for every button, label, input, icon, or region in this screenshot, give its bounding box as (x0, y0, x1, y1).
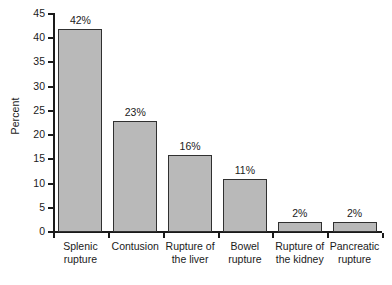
bar (58, 29, 102, 232)
x-axis-category-label-line: Splenic (53, 240, 108, 253)
x-axis-category-label-line: Rupture of (163, 240, 218, 253)
x-axis-category-label-line: Contusion (108, 240, 163, 253)
x-axis-category-label-line: rupture (327, 253, 382, 266)
bar (113, 121, 157, 232)
bar-value-label: 2% (347, 207, 362, 219)
y-axis-tick-label: 35 (33, 55, 45, 68)
bar (168, 155, 212, 233)
bar-value-label: 23% (125, 106, 146, 118)
x-axis-tick-mark (272, 233, 274, 238)
x-axis-category-label-line: Pancreatic (327, 240, 382, 253)
bar-group: 23% (108, 14, 163, 232)
x-axis-tick-mark (163, 233, 165, 238)
x-axis-category-label-line: rupture (218, 253, 273, 266)
x-axis-tick-mark (53, 233, 55, 238)
y-axis-tick-label: 40 (33, 31, 45, 44)
bar (278, 222, 322, 232)
x-axis-category-label: Contusion (108, 240, 163, 253)
x-axis-tick-mark (108, 233, 110, 238)
bar-group: 16% (163, 14, 218, 232)
y-axis-title: Percent (6, 0, 24, 232)
bar-group: 2% (272, 14, 327, 232)
x-axis-category-label-line: Rupture of (272, 240, 327, 253)
y-axis-tick-label: 25 (33, 104, 45, 117)
y-axis-title-text: Percent (9, 98, 21, 135)
x-axis-tick-mark (382, 233, 384, 238)
x-axis-category-label: Pancreaticrupture (327, 240, 382, 266)
y-axis-tick-label: 15 (33, 152, 45, 165)
bar (223, 179, 267, 232)
y-axis-tick-label: 20 (33, 128, 45, 141)
y-axis-tick-label: 30 (33, 80, 45, 93)
x-axis-category-label-line: Bowel (218, 240, 273, 253)
bars-layer: 42%23%16%11%2%2% (53, 14, 382, 232)
x-axis-category-label-line: the kidney (272, 253, 327, 266)
x-axis-category-label: Rupture ofthe kidney (272, 240, 327, 266)
bar (333, 222, 377, 232)
x-axis-tick-mark (218, 233, 220, 238)
bar-value-label: 16% (180, 140, 201, 152)
bar-group: 42% (53, 14, 108, 232)
x-axis-category-label: Bowelrupture (218, 240, 273, 266)
bar-chart: Percent 454035302520151050 42%23%16%11%2… (0, 0, 392, 285)
x-axis-category-label-line: rupture (53, 253, 108, 266)
y-axis-tick-label: 5 (39, 201, 45, 214)
bar-value-label: 11% (235, 164, 255, 176)
x-axis-category-label: Rupture ofthe liver (163, 240, 218, 266)
y-axis-tick-label: 10 (33, 177, 45, 190)
x-axis-category-label: Splenicrupture (53, 240, 108, 266)
y-axis-tick-label: 0 (39, 225, 45, 238)
bar-value-label: 2% (292, 207, 307, 219)
bar-group: 2% (327, 14, 382, 232)
x-axis-category-label-line: the liver (163, 253, 218, 266)
bar-value-label: 42% (70, 14, 91, 26)
bar-group: 11% (218, 14, 273, 232)
y-axis-tick-label: 45 (33, 7, 45, 20)
x-axis-tick-mark (327, 233, 329, 238)
